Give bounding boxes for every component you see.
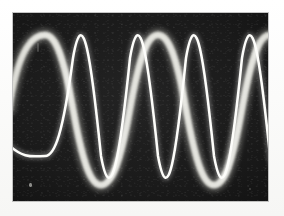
emulsion-blemish-lower-right [249, 188, 251, 190]
film-grain-overlay [13, 13, 268, 201]
emulsion-blemish-upper-left [37, 43, 39, 52]
photograph-plate [0, 0, 284, 216]
emulsion-blemish-lower-left [29, 183, 32, 187]
oscilloscope-photo-region [13, 13, 268, 201]
